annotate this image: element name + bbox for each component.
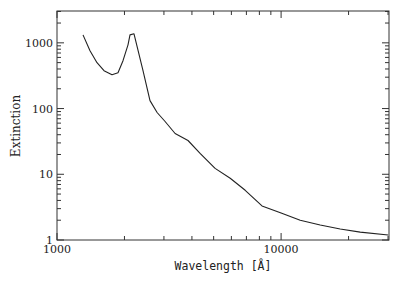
x-axis-title: Wavelength [Å] [175,258,272,273]
extinction-chart: 100010000 1101001000 Wavelength [Å] Exti… [0,0,402,282]
y-axis-ticks [57,11,389,240]
y-tick-label: 10 [39,168,53,181]
x-tick-label: 10000 [264,243,299,256]
y-axis-tick-labels: 1101001000 [25,37,53,247]
x-axis-tick-labels: 100010000 [43,243,299,256]
x-axis-ticks [57,11,388,240]
y-tick-label: 1 [46,234,53,247]
y-tick-label: 1000 [25,37,53,50]
plot-frame [57,11,389,240]
y-axis-title: Extinction [9,95,23,158]
y-tick-label: 100 [32,103,53,116]
extinction-curve-line [83,34,388,235]
